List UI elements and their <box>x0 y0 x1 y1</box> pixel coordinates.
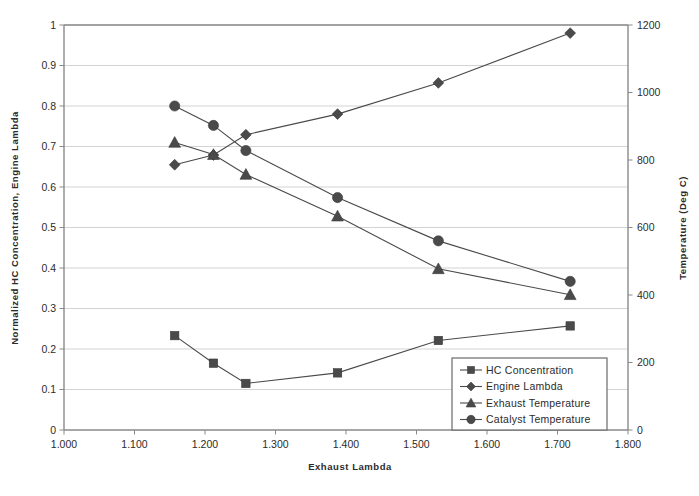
chart-legend: HC ConcentrationEngine LambdaExhaust Tem… <box>452 358 607 430</box>
x-axis-tick-label: 1.200 <box>192 438 218 450</box>
data-point-circle <box>241 145 251 155</box>
y-axis-left-tick-label: 0.2 <box>41 343 56 355</box>
legend-entry-label: Catalyst Temperature <box>486 413 591 425</box>
data-point-circle <box>170 101 180 111</box>
y-axis-right-tick-label: 800 <box>637 154 655 166</box>
data-point-circle <box>332 192 342 202</box>
y-axis-left-tick-label: 0.4 <box>41 262 56 274</box>
x-axis-tick-label: 1.300 <box>262 438 288 450</box>
y-axis-left-tick-label: 0.1 <box>41 383 56 395</box>
x-axis-title: Exhaust Lambda <box>308 461 392 472</box>
x-axis-tick-labels: 1.0001.1001.2001.3001.4001.5001.6001.700… <box>51 438 641 450</box>
data-point-circle <box>467 415 475 423</box>
y-axis-left-tick-label: 0.8 <box>41 100 56 112</box>
x-axis-tick-label: 1.400 <box>333 438 359 450</box>
y-axis-right-title: Temperature (Deg C) <box>677 176 688 280</box>
chart-figure: 1.0001.1001.2001.3001.4001.5001.6001.700… <box>0 0 699 496</box>
legend-entry-label: HC Concentration <box>486 364 573 376</box>
data-point-square <box>468 367 475 374</box>
y-axis-right-tick-label: 400 <box>637 289 655 301</box>
data-point-square <box>333 369 341 377</box>
data-point-square <box>209 359 217 367</box>
y-axis-left-tick-label: 0 <box>50 424 56 436</box>
data-point-square <box>434 336 442 344</box>
x-axis-tick-label: 1.600 <box>474 438 500 450</box>
data-point-square <box>170 331 178 339</box>
y-axis-left-tick-label: 1 <box>50 19 56 31</box>
data-point-square <box>566 322 574 330</box>
y-axis-left-tick-label: 0.3 <box>41 302 56 314</box>
data-point-square <box>242 379 250 387</box>
data-point-circle <box>433 236 443 246</box>
y-axis-right-tick-label: 1200 <box>637 19 661 31</box>
data-point-circle <box>208 120 218 130</box>
y-axis-right-tick-label: 200 <box>637 356 655 368</box>
y-axis-left-tick-label: 0.7 <box>41 140 56 152</box>
x-axis-tick-label: 1.100 <box>121 438 147 450</box>
x-axis-tick-label: 1.700 <box>544 438 570 450</box>
data-point-circle <box>565 276 575 286</box>
chart-container: 1.0001.1001.2001.3001.4001.5001.6001.700… <box>0 0 699 496</box>
y-axis-left-tick-label: 0.6 <box>41 181 56 193</box>
y-axis-right-tick-label: 0 <box>637 424 643 436</box>
legend-entry-label: Engine Lambda <box>486 380 563 392</box>
y-axis-left-tick-label: 0.9 <box>41 59 56 71</box>
y-axis-right-tick-label: 1000 <box>637 86 661 98</box>
legend-entry-label: Exhaust Temperature <box>486 397 590 409</box>
x-axis-tick-label: 1.800 <box>615 438 641 450</box>
y-axis-right-tick-label: 600 <box>637 221 655 233</box>
x-axis-tick-label: 1.000 <box>51 438 77 450</box>
y-axis-left-tick-label: 0.5 <box>41 221 56 233</box>
x-axis-tick-label: 1.500 <box>403 438 429 450</box>
y-axis-left-title: Normalized HC Concentration, Engine Lamb… <box>9 111 20 345</box>
